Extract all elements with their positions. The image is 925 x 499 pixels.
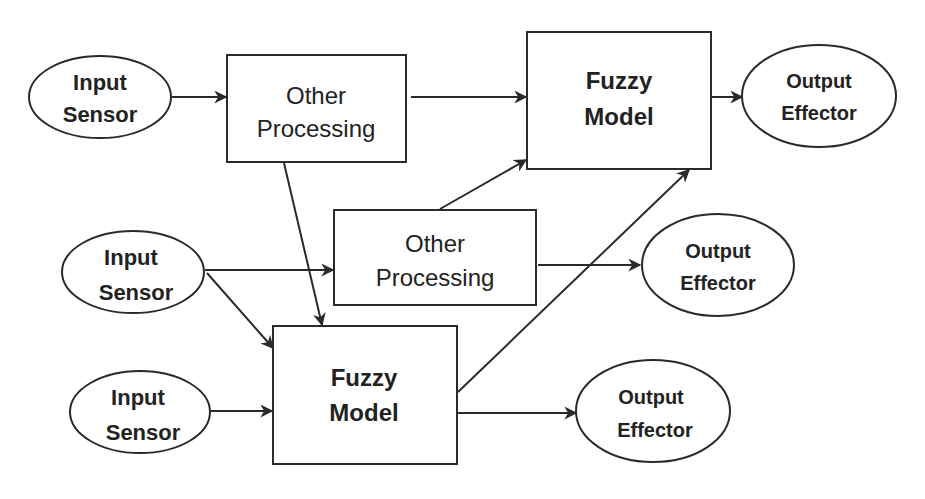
other-processing-1-line2: Processing <box>257 115 376 142</box>
output-effector-3-line2: Effector <box>617 419 693 441</box>
output-effector-2-line1: Output <box>685 240 751 262</box>
other-processing-2-line2: Processing <box>376 264 495 291</box>
fuzzy-system-diagram: Input Sensor Other Processing Fuzzy Mode… <box>0 0 925 499</box>
other-processing-1: Other Processing <box>227 55 406 162</box>
input-sensor-1: Input Sensor <box>29 56 171 138</box>
fuzzy-model-1-line2: Model <box>584 103 653 130</box>
edge-input2-fuzzy2 <box>207 273 273 348</box>
edge-other2-fuzzy1 <box>440 160 526 209</box>
fuzzy-model-2-line2: Model <box>329 399 398 426</box>
input-sensor-2: Input Sensor <box>62 231 204 313</box>
output-effector-3: Output Effector <box>576 360 730 462</box>
input-sensor-3-line2: Sensor <box>106 420 181 445</box>
fuzzy-model-2-line1: Fuzzy <box>331 364 398 391</box>
input-sensor-1-line2: Sensor <box>63 102 138 127</box>
input-sensor-2-line1: Input <box>104 245 158 270</box>
edge-other1-fuzzy2 <box>284 163 322 325</box>
output-effector-2: Output Effector <box>642 214 794 316</box>
other-processing-2: Other Processing <box>334 210 536 305</box>
input-sensor-2-line2: Sensor <box>99 280 174 305</box>
output-effector-3-line1: Output <box>618 386 684 408</box>
output-effector-2-line2: Effector <box>680 272 756 294</box>
other-processing-2-line1: Other <box>405 230 465 257</box>
input-sensor-1-line1: Input <box>73 70 127 95</box>
output-effector-1-line1: Output <box>786 70 852 92</box>
fuzzy-model-2: Fuzzy Model <box>273 326 457 464</box>
output-effector-1: Output Effector <box>742 45 896 147</box>
input-sensor-3-line1: Input <box>111 385 165 410</box>
output-effector-1-line2: Effector <box>781 102 857 124</box>
input-sensor-3: Input Sensor <box>70 371 210 453</box>
fuzzy-model-1: Fuzzy Model <box>527 32 711 169</box>
fuzzy-model-1-line1: Fuzzy <box>586 67 653 94</box>
other-processing-1-line1: Other <box>286 82 346 109</box>
